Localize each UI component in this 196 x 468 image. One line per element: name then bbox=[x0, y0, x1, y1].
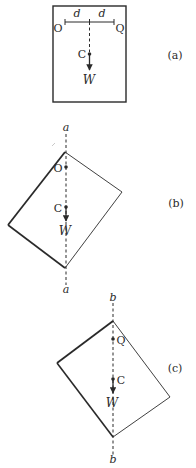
axis-label-bottom: b bbox=[109, 453, 116, 466]
plate-edge-upper-left bbox=[57, 321, 113, 363]
pivot-dot-q bbox=[111, 337, 115, 341]
suspended-plate-diagram: d d O Q C W (a) a a O C W (b) b b Q bbox=[0, 0, 196, 468]
weight-label: W bbox=[83, 73, 97, 87]
plate-edge-lower-right bbox=[113, 397, 170, 437]
panel-caption-a: (a) bbox=[167, 49, 182, 62]
point-label-c: C bbox=[117, 374, 125, 387]
dimension-label-right: d bbox=[98, 7, 105, 20]
point-label-c: C bbox=[54, 202, 62, 215]
dimension-label-left: d bbox=[73, 7, 80, 20]
axis-label-top: a bbox=[63, 121, 70, 134]
plate-edge-lower-left bbox=[8, 225, 65, 268]
point-label-q: Q bbox=[116, 334, 125, 347]
stray-mark bbox=[52, 143, 55, 146]
pivot-dot-o bbox=[64, 165, 68, 169]
point-label-q: Q bbox=[115, 22, 124, 35]
panel-caption-b: (b) bbox=[168, 197, 184, 210]
point-label-o: O bbox=[53, 162, 62, 175]
point-label-o: O bbox=[53, 22, 62, 35]
plate-edge-lower-left bbox=[57, 363, 113, 437]
weight-label: W bbox=[59, 224, 73, 238]
panel-c: b b Q C W (c) bbox=[57, 291, 182, 466]
plate-edge-upper-right bbox=[65, 152, 122, 192]
axis-label-top: b bbox=[109, 291, 116, 304]
point-label-c: C bbox=[78, 48, 86, 61]
weight-label: W bbox=[106, 396, 120, 410]
panel-a: d d O Q C W (a) bbox=[53, 6, 183, 102]
axis-label-bottom: a bbox=[63, 283, 70, 296]
panel-caption-c: (c) bbox=[168, 362, 183, 375]
plate-edge-lower-right bbox=[65, 192, 122, 268]
panel-b: a a O C W (b) bbox=[8, 121, 184, 296]
